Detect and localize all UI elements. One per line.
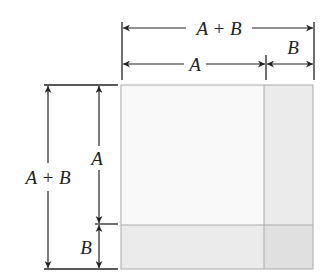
region-ab-right	[264, 85, 313, 225]
region-a-squared	[121, 85, 264, 225]
region-ab-bottom	[121, 225, 264, 269]
left-dimensions: A + B A B	[23, 85, 118, 269]
left-a-label: A	[89, 148, 103, 169]
top-dimensions: A + B A B	[122, 18, 314, 80]
square-diagram: A + B A B A + B A B	[0, 0, 328, 280]
left-b-label: B	[80, 237, 92, 258]
top-a-label: A	[187, 54, 201, 75]
top-b-label: B	[287, 37, 299, 58]
square	[121, 85, 313, 269]
top-total-label: A + B	[194, 18, 242, 39]
left-total-label: A + B	[23, 167, 71, 188]
region-b-squared	[264, 225, 313, 269]
